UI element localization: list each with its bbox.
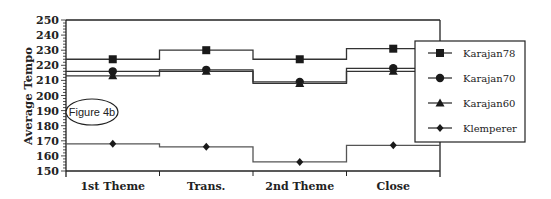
legend: Karajan78Karajan70Karajan60Klemperer [415, 41, 525, 142]
diamond-marker-icon [203, 143, 210, 151]
square-marker-icon [389, 45, 397, 53]
y-tick-label: 230 [36, 44, 59, 57]
y-tick-label: 160 [36, 150, 59, 163]
step-line [66, 49, 440, 60]
square-marker-icon [436, 49, 444, 57]
legend-label: Klemperer [463, 123, 517, 134]
y-tick-label: 200 [36, 90, 59, 103]
y-tick-label: 240 [36, 29, 59, 42]
y-tick-label: 210 [36, 74, 59, 87]
x-category-label: 1st Theme [80, 180, 145, 193]
annotation-text: Figure 4b [69, 106, 115, 118]
series-klemperer [66, 140, 440, 166]
square-marker-icon [202, 46, 210, 54]
y-axis-title: Average Tempo [21, 47, 35, 146]
diamond-marker-icon [296, 158, 303, 166]
circle-marker-icon [436, 74, 444, 82]
legend-label: Karajan70 [463, 73, 515, 84]
y-tick-label: 250 [36, 14, 59, 27]
square-marker-icon [296, 55, 304, 63]
y-tick-label: 190 [36, 105, 59, 118]
series-karajan78 [66, 45, 440, 64]
legend-label: Karajan78 [463, 48, 515, 59]
y-tick-label: 150 [36, 165, 59, 178]
diamond-marker-icon [390, 141, 397, 149]
x-category-label: Trans. [187, 180, 225, 193]
y-tick-label: 170 [36, 135, 59, 148]
series-lines [66, 45, 440, 166]
square-marker-icon [109, 55, 117, 63]
legend-label: Karajan60 [463, 98, 515, 109]
x-category-label: 2nd Theme [265, 180, 334, 193]
figure-annotation: Figure 4b [66, 99, 118, 125]
y-tick-label: 220 [36, 59, 59, 72]
step-line [66, 71, 440, 83]
y-tick-label: 180 [36, 120, 59, 133]
diamond-marker-icon [109, 140, 116, 148]
x-category-label: Close [377, 180, 410, 193]
step-line [66, 144, 440, 162]
step-line-chart: 1501601701801902002102202302402501st The… [0, 0, 551, 199]
